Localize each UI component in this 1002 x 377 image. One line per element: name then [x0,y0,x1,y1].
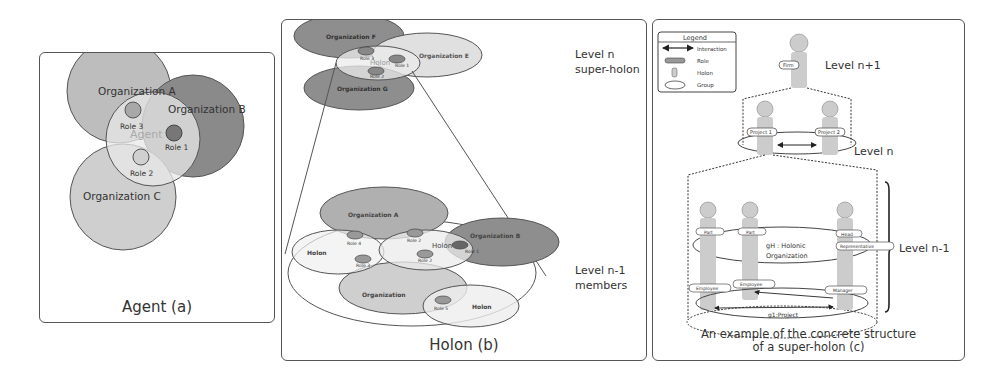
organization-label: Organization [362,291,406,299]
legend-item-holon: Holon [697,70,713,76]
legend-item-group: Group [697,82,714,89]
firm-role-label: Firm [783,62,794,68]
level-n-label: Level n [854,145,894,158]
super-holon-diagram: Legend Interaction Role Holon Group Firm… [653,20,966,362]
holon-diagram: Organization F Organization E Organizati… [282,20,648,362]
holon-label: Holon [472,303,492,310]
project-group-label: g1:Project [768,311,799,319]
background-text-fragment [60,0,65,13]
holon-label: Holon [307,249,327,256]
legend: Legend Interaction Role Holon Group [658,32,736,92]
legend-item-interaction: Interaction [697,46,727,52]
manager-role-label: Manager [833,288,853,293]
role-ellipse [389,55,405,63]
role-ellipse [417,250,433,258]
project-2-role-label: Project 2 [818,129,840,136]
project-1-holon-head [757,101,773,117]
level-n-1-label: Level n-1 [575,264,625,277]
member-holon-ellipse [292,230,384,274]
head-role-label: Head [841,232,853,237]
role-2-label: Role 2 [130,169,154,178]
agent-diagram: Organization A Organization B Organizati… [40,53,276,324]
member-holon-head [742,202,758,218]
caption-line-2: of a super-holon (c) [653,341,964,354]
role-label: Role 3 [356,263,370,268]
role-label: Role 5 [434,306,448,311]
group-legend-icon [665,81,685,89]
level-n-label: Level n [575,48,615,61]
panel-holon: Organization F Organization E Organizati… [281,19,647,361]
representative-role-label: Representative [840,244,874,249]
role-label: Role 2 [370,74,384,79]
decomposition-line [773,155,877,320]
interaction-arrow [755,292,833,298]
interaction-arrow [715,307,833,308]
role-ellipse [407,229,423,237]
role-1-label: Role 1 [165,143,189,152]
caption-holon: Holon (b) [282,336,646,354]
project-1-role-label: Project 1 [750,129,772,136]
role-label: Role 1 [395,63,409,68]
role-ellipse [435,296,451,304]
holonic-group-label-1: gH : Holonic [766,242,806,250]
organization-b-label: Organization B [470,232,521,240]
role-ellipse [358,47,374,55]
organization-g-label: Organization G [337,85,388,93]
role-label: Role 3 [360,56,374,61]
super-holon-caption: super-holon [575,63,640,76]
organization-f-label: Organization F [326,33,376,41]
member-holon-head [837,202,853,218]
role-3-label: Role 3 [120,122,144,131]
organization-e-label: Organization E [419,52,469,60]
part-role-label: Part [704,230,713,235]
member-holon-head [700,202,716,218]
role-ellipse [347,231,363,239]
role-label: Role 2 [418,258,432,263]
level-n-plus-1-label: Level n+1 [825,59,881,72]
caption-agent: Agent (a) [40,298,274,316]
role-2-circle [133,149,149,165]
organization-c-label: Organization C [83,190,161,202]
role-3-circle [125,102,141,118]
holon-legend-icon [672,68,677,77]
employee-role-label: Employee [696,286,719,291]
firm-holon-head [790,34,808,52]
role-legend-icon [665,58,685,63]
holon-label: Holon [432,242,452,250]
employee-role-label: Employee [740,282,763,287]
legend-title: Legend [683,34,707,42]
members-caption: members [575,279,627,292]
organization-b-label: Organization B [168,103,246,115]
panel-agent: Organization A Organization B Organizati… [39,52,275,323]
project-2-holon-head [822,101,838,117]
legend-item-role: Role [697,58,709,64]
role-ellipse [452,241,468,249]
holonic-group-label-2: Organization [766,252,808,260]
part-role-label: Part [746,230,755,235]
role-label: Role 4 [347,241,361,246]
organization-a-label: Organization A [348,211,399,219]
panel-super-holon: Legend Interaction Role Holon Group Firm… [652,19,965,361]
role-label: Role 2 [407,238,421,243]
role-ellipse [355,255,371,263]
caption-super-holon: An example of the concrete structure of … [653,328,964,354]
level-n-1-label: Level n-1 [899,242,949,255]
firm-holon-body [791,52,807,88]
organization-a-label: Organization A [98,85,176,97]
role-label: Role 1 [465,249,479,254]
role-1-circle [166,125,182,141]
